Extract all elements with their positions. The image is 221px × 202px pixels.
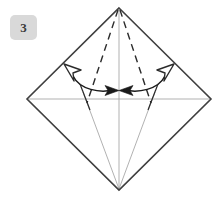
- right-hollow-arrow-head: [157, 64, 174, 81]
- left-fold-arrow-group: [64, 64, 119, 110]
- left-hollow-arrow-head: [64, 64, 81, 81]
- right-fold-arrow-group: [119, 64, 174, 110]
- crease-guides: [27, 9, 211, 189]
- origami-diagram-page: 3: [0, 0, 221, 202]
- origami-figure: [0, 0, 221, 202]
